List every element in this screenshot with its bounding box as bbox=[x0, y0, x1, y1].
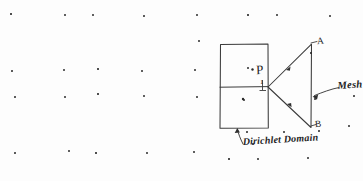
vertex-top-label: A bbox=[316, 36, 324, 47]
mesh-label: Mesh bbox=[337, 78, 362, 91]
mesh-leader bbox=[313, 88, 339, 100]
figure-canvas: P A B 1 Dirichlet Domain Mesh bbox=[0, 0, 363, 181]
midpoint-tick-label: 1 bbox=[260, 78, 264, 86]
triangle-outline bbox=[268, 44, 312, 127]
mesh-triangle bbox=[268, 44, 312, 127]
rectangle-outline bbox=[220, 44, 268, 128]
mesh-leader-line bbox=[315, 88, 340, 96]
point-p-label: P bbox=[256, 62, 264, 78]
lower-cell-point-marker bbox=[242, 98, 244, 100]
point-p-marker bbox=[251, 68, 253, 70]
vertex-bottom-label: B bbox=[314, 119, 322, 130]
dirichlet-domain-rectangle bbox=[220, 44, 268, 128]
dirichlet-leader-arrowhead bbox=[235, 128, 240, 133]
hand-drawn-figure bbox=[0, 0, 363, 181]
rectangle-divider-line bbox=[220, 87, 268, 88]
